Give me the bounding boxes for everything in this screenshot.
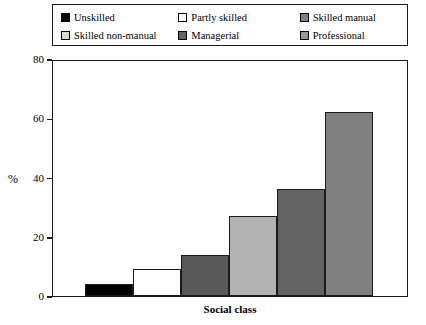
- legend-entry-label: Skilled non-manual: [74, 30, 157, 41]
- y-axis-tick-label: 40: [33, 172, 44, 185]
- legend-entry-label: Unskilled: [74, 12, 115, 23]
- y-axis-tick-label: 60: [33, 112, 44, 125]
- bar: [85, 284, 133, 296]
- legend-entry-skilled-non-manual: Skilled non-manual: [53, 26, 174, 44]
- legend-entry-unskilled: Unskilled: [53, 8, 174, 26]
- legend-entry-partly-skilled: Partly skilled: [174, 8, 295, 26]
- bar: [229, 216, 277, 296]
- legend-entry-label: Professional: [313, 30, 365, 41]
- bar: [133, 269, 181, 296]
- legend-row: Unskilled Partly skilled Skilled manual: [53, 8, 407, 26]
- legend-entry-managerial: Managerial: [174, 26, 295, 44]
- legend-entry-label: Managerial: [191, 30, 239, 41]
- legend-row: Skilled non-manual Managerial Profession…: [53, 26, 407, 44]
- chart-legend: Unskilled Partly skilled Skilled manual …: [52, 4, 408, 46]
- legend-swatch-icon: [61, 13, 70, 22]
- bar-chart-figure: Unskilled Partly skilled Skilled manual …: [0, 0, 426, 325]
- plot-area: [53, 61, 407, 296]
- y-axis-title: %: [8, 172, 18, 187]
- plot-frame: [52, 60, 408, 297]
- legend-swatch-icon: [300, 13, 309, 22]
- legend-entry-label: Partly skilled: [191, 12, 247, 23]
- legend-swatch-icon: [178, 13, 187, 22]
- legend-swatch-icon: [300, 31, 309, 40]
- legend-entry-label: Skilled manual: [313, 12, 376, 23]
- x-axis-title: Social class: [52, 303, 408, 315]
- legend-entry-professional: Professional: [296, 26, 407, 44]
- bar: [325, 112, 373, 296]
- y-axis-tick-label: 80: [33, 53, 44, 66]
- bar: [181, 255, 229, 296]
- bar: [277, 189, 325, 296]
- legend-swatch-icon: [61, 31, 70, 40]
- legend-entry-skilled-manual: Skilled manual: [296, 8, 407, 26]
- legend-swatch-icon: [178, 31, 187, 40]
- y-axis-tick-label: 20: [33, 231, 44, 244]
- y-axis-tick-label: 0: [39, 290, 45, 303]
